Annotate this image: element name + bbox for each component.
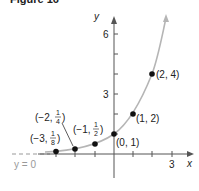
y-axis-arrow-icon	[111, 16, 117, 24]
svg-text:4: 4	[56, 118, 60, 125]
svg-text:(−1,: (−1,	[73, 124, 91, 135]
y-tick-6: 6	[103, 29, 109, 40]
exponential-chart: y x 6 3 3 y = 0 (2, 4) (1, 2) (0, 1) (−1…	[0, 0, 199, 191]
curve-arrow-icon	[163, 14, 169, 22]
point-label-neg3: (−3, 1 8 )	[30, 130, 60, 146]
leader-line	[62, 123, 73, 146]
point-label-neg1: (−1, 1 2 )	[73, 121, 103, 137]
svg-text:(−3,: (−3,	[30, 133, 48, 144]
point-label-0-1: (0, 1)	[116, 137, 139, 148]
svg-text:1: 1	[94, 121, 98, 128]
svg-text:): )	[100, 124, 103, 135]
svg-text:2: 2	[94, 130, 98, 137]
point-label-2-4: (2, 4)	[156, 69, 179, 80]
svg-text:1: 1	[51, 130, 55, 137]
svg-text:(−2,: (−2,	[35, 112, 53, 123]
x-axis-label: x	[186, 158, 193, 169]
y-ticks	[114, 34, 118, 134]
asymptote-label: y = 0	[14, 159, 36, 170]
svg-text:): )	[57, 133, 60, 144]
svg-text:8: 8	[51, 139, 55, 146]
x-axis-arrow-icon	[187, 151, 194, 157]
y-axis-label: y	[93, 11, 100, 22]
x-tick-3: 3	[169, 159, 175, 170]
svg-text:): )	[62, 112, 65, 123]
point-label-1-2: (1, 2)	[136, 113, 159, 124]
point-label-neg2: (−2, 1 4 )	[35, 109, 65, 125]
svg-text:1: 1	[56, 109, 60, 116]
y-tick-3: 3	[103, 89, 109, 100]
